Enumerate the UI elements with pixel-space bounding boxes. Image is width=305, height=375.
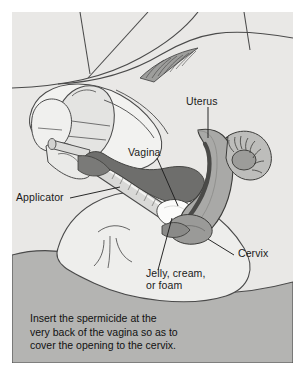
label-applicator: Applicator <box>16 192 64 204</box>
caption-line-2: very back of the vagina so as to <box>30 326 178 340</box>
label-vagina: Vagina <box>128 147 161 159</box>
anatomical-illustration: Uterus Vagina Applicator Cervix Jelly, c… <box>12 12 293 363</box>
caption-line-1: Insert the spermicide at the <box>30 312 178 326</box>
label-jelly-cream-foam: Jelly, cream, or foam <box>146 268 205 291</box>
label-cervix: Cervix <box>238 248 268 260</box>
label-uterus: Uterus <box>186 96 218 108</box>
label-jelly-line-2: or foam <box>146 280 205 292</box>
label-jelly-line-1: Jelly, cream, <box>146 268 205 280</box>
ovary <box>232 150 256 170</box>
caption-line-3: cover the opening to the cervix. <box>30 339 178 353</box>
figure-container: Uterus Vagina Applicator Cervix Jelly, c… <box>0 0 305 375</box>
illustration-svg <box>12 12 293 363</box>
plunger-end-flange <box>48 139 56 150</box>
caption-block: Insert the spermicide at the very back o… <box>30 312 178 353</box>
